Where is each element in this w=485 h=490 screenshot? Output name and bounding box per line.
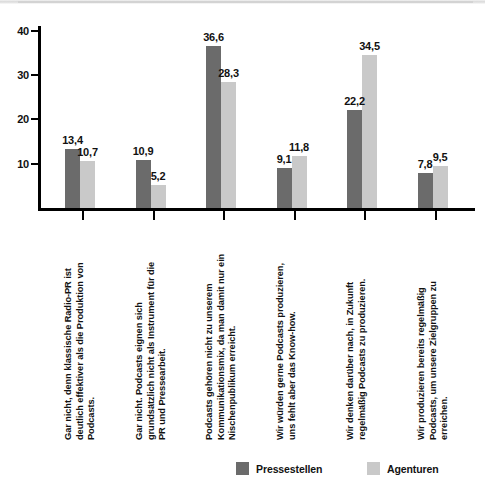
legend-swatch-icon [236,462,249,475]
y-tick-label: 10 [17,158,29,170]
bar-value-label: 13,4 [62,134,83,146]
legend-item-pressestellen[interactable]: Pressestellen [236,462,322,475]
category-label: Gar nicht. Podcasts eignen sich grundsät… [134,222,169,440]
category-label: Wir produzieren bereits regelmäßig Podca… [416,222,451,440]
category-label-group: Gar nicht, denn klassische Radio-PR ist … [0,218,485,446]
bar-value-label: 36,6 [203,31,224,43]
bar-agenturen [433,166,448,208]
bar-agenturen [80,161,95,208]
bar-pressestellen [347,110,362,208]
category-label: Wir denken darüber nach, in Zukunft rege… [345,222,368,440]
bar-value-label: 9,1 [277,153,292,165]
bar-agenturen [221,82,236,208]
x-axis [38,208,475,211]
bar-value-label: 5,2 [151,170,166,182]
legend-item-agenturen[interactable]: Agenturen [367,462,439,475]
bar-value-label: 11,8 [289,141,309,153]
bar-value-label: 34,5 [359,40,380,52]
category-label: Podcasts gehören nicht zu unserem Kommun… [204,222,239,440]
bar-pressestellen [277,168,292,208]
category-label: Wir würden gerne Podcasts produzieren, u… [275,222,298,440]
bar-value-label: 7,8 [418,158,433,170]
bar-value-label: 28,3 [218,67,239,79]
bar-pressestellen [136,160,151,208]
scan-edge-line [18,1,473,3]
y-tick-mark [31,74,38,76]
y-axis [38,26,41,211]
y-tick-label: 40 [17,25,29,37]
y-tick-mark [31,163,38,165]
y-tick-label: 30 [17,69,29,81]
bar-value-label: 9,5 [433,151,448,163]
bar-agenturen [292,156,307,208]
legend-label: Pressestellen [256,463,322,475]
bar-pressestellen [418,173,433,208]
chart-legend: PressestellenAgenturen [0,462,485,484]
bar-value-label: 10,9 [133,145,154,157]
bar-agenturen [151,185,166,208]
category-label: Gar nicht, denn klassische Radio-PR ist … [63,222,98,440]
bar-value-label: 10,7 [77,146,98,158]
y-tick-label: 20 [17,113,29,125]
bar-chart: 10203040 13,410,710,95,236,628,39,111,82… [0,0,485,490]
legend-label: Agenturen [387,463,439,475]
plot-area: 10203040 13,410,710,95,236,628,39,111,82… [38,26,475,211]
bar-value-label: 22,2 [344,95,365,107]
legend-swatch-icon [367,462,380,475]
bar-agenturen [362,55,377,208]
y-tick-mark [31,118,38,120]
y-tick-mark [31,30,38,32]
scan-edge-strip [0,0,485,4]
